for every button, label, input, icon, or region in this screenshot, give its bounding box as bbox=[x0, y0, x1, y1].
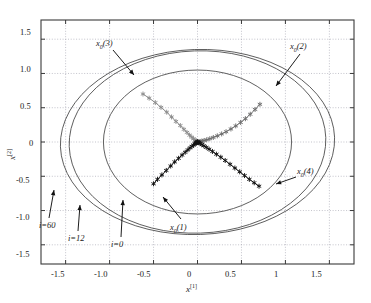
x-tick-label: 0.5 bbox=[225, 269, 236, 279]
x-axis-title: x[1] bbox=[186, 283, 197, 294]
annotation-x0-3: x0(3) bbox=[96, 38, 113, 50]
figure-container: 1.5 1.0 0.5 0 -0.5 -1.0 -1.5 -1.5 -1.0 -… bbox=[0, 0, 371, 303]
y-tick-label: 1.0 bbox=[20, 64, 31, 74]
y-tick-label: 1.5 bbox=[20, 27, 31, 37]
x-tick-label: -1.0 bbox=[94, 269, 107, 279]
y-tick-label: 0.5 bbox=[20, 101, 31, 111]
y-tick-label: -1.5 bbox=[16, 249, 29, 259]
x-tick-label: 0 bbox=[187, 269, 191, 279]
y-tick-label: -0.5 bbox=[16, 175, 29, 185]
annotation-i60: i=60 bbox=[39, 220, 56, 230]
x-tick-label: -0.5 bbox=[137, 269, 150, 279]
x-tick-label: 1.5 bbox=[311, 269, 322, 279]
annotation-x0-1: x0(1) bbox=[170, 222, 187, 234]
annotation-i0: i=0 bbox=[111, 239, 123, 249]
x-tick-label: 1 bbox=[274, 269, 278, 279]
y-tick-label: -1.0 bbox=[16, 212, 29, 222]
annotation-x0-4: x0(4) bbox=[297, 166, 314, 178]
annotation-i12: i=12 bbox=[68, 233, 85, 243]
phase-portrait-chart bbox=[0, 0, 371, 303]
annotation-x0-2: x0(2) bbox=[290, 41, 307, 53]
x-tick-label: -1.5 bbox=[51, 269, 64, 279]
y-tick-label: 0 bbox=[29, 138, 33, 148]
y-axis-title: x[2] bbox=[6, 149, 17, 160]
